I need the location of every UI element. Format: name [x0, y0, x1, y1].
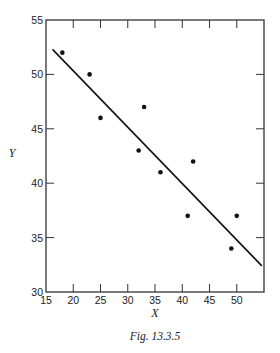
data-series: [53, 49, 262, 266]
data-point: [142, 105, 147, 110]
figure-caption: Fig. 13.3.5: [129, 330, 181, 343]
x-tick-label: 45: [204, 294, 216, 306]
x-tick-label: 35: [149, 294, 161, 306]
x-tick-label: 50: [231, 294, 243, 306]
x-axis-label: X: [150, 306, 159, 320]
y-tick-label: 45: [31, 123, 43, 135]
regression-line: [53, 49, 262, 266]
data-point: [158, 170, 163, 175]
data-point: [185, 214, 190, 219]
data-point: [234, 214, 239, 219]
y-tick-label: 50: [31, 68, 43, 80]
data-point: [191, 159, 196, 164]
x-tick-label: 20: [67, 294, 79, 306]
y-tick-label: 35: [31, 232, 43, 244]
tick-labels: 1520253035404550303540455055: [31, 14, 242, 306]
x-tick-label: 25: [95, 294, 107, 306]
x-tick-label: 40: [176, 294, 188, 306]
scatter-chart: 1520253035404550303540455055 X Y Fig. 13…: [0, 0, 280, 353]
data-point: [229, 246, 234, 251]
data-point: [136, 148, 141, 153]
y-tick-label: 30: [31, 286, 43, 298]
y-axis-label: Y: [9, 146, 17, 160]
y-tick-label: 40: [31, 177, 43, 189]
data-point: [98, 116, 103, 121]
x-tick-label: 30: [122, 294, 134, 306]
data-point: [60, 50, 65, 55]
y-tick-label: 55: [31, 14, 43, 26]
data-point: [87, 72, 92, 77]
